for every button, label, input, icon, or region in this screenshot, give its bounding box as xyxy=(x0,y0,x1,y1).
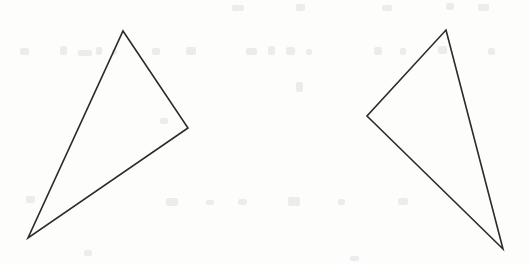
scan-ghost-mark xyxy=(288,197,300,206)
triangles-figure-svg xyxy=(0,0,530,265)
scan-ghost-mark xyxy=(186,47,196,55)
scan-ghost-mark xyxy=(206,200,214,205)
scan-ghost-mark xyxy=(78,50,92,56)
scan-ghost-mark xyxy=(374,47,382,55)
scan-ghost-mark xyxy=(268,46,275,55)
scan-ghost-mark xyxy=(160,118,168,124)
scan-ghost-mark xyxy=(382,5,392,11)
scan-ghost-mark xyxy=(338,199,345,205)
scan-ghost-mark xyxy=(296,82,303,92)
scan-ghost-mark xyxy=(96,47,102,55)
scan-ghost-mark xyxy=(84,250,92,256)
scan-ghost-mark xyxy=(306,49,312,55)
scan-ghost-mark xyxy=(152,48,160,55)
scan-ghost-mark xyxy=(26,196,35,203)
scan-ghost-mark xyxy=(446,3,454,10)
scan-ghost-mark xyxy=(296,4,305,11)
scan-ghost-mark xyxy=(232,5,244,11)
scan-ghost-mark xyxy=(60,46,67,55)
scan-ghost-mark xyxy=(488,48,495,55)
scan-ghost-mark xyxy=(350,256,359,261)
scan-ghost-mark xyxy=(478,4,489,11)
scan-ghost-mark xyxy=(286,47,295,55)
scan-ghost-mark xyxy=(166,198,178,206)
scan-ghost-mark xyxy=(20,48,29,55)
paper-background xyxy=(0,0,530,265)
scan-ghost-mark xyxy=(238,199,247,205)
scan-ghost-mark xyxy=(438,46,447,54)
scan-ghost-mark xyxy=(246,48,257,55)
scan-ghost-mark xyxy=(398,198,408,205)
figure-canvas xyxy=(0,0,530,265)
scan-ghost-mark xyxy=(400,48,406,55)
